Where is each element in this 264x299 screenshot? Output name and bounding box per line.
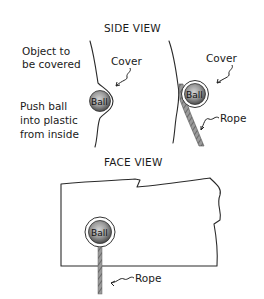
ball-label: Ball — [91, 97, 108, 107]
face-view-panel: Ball Rope — [61, 178, 220, 294]
rope-label: Rope — [135, 272, 161, 284]
cover-arrow-icon — [217, 65, 232, 83]
object-to-be-covered-label-line1: Object to — [22, 45, 70, 57]
face-view-title: FACE VIEW — [104, 156, 163, 168]
cover-arrow-icon — [116, 68, 130, 86]
side-view-title: SIDE VIEW — [104, 22, 161, 34]
push-ball-label-line2: into plastic — [20, 114, 78, 126]
ball-label: Ball — [91, 228, 108, 238]
rope-arrow-icon — [111, 277, 134, 283]
tarp-outline — [61, 178, 220, 266]
object-to-be-covered-label-line2: be covered — [22, 58, 81, 70]
side-view-left-panel: Object to be covered Ball Cover Push bal… — [20, 41, 142, 147]
tarp-ball-tie-diagram: SIDE VIEW Object to be covered Ball Cove… — [0, 0, 264, 299]
rope-icon — [98, 247, 102, 294]
rope-arrowhead-icon — [111, 281, 115, 286]
push-ball-label-line3: from inside — [20, 128, 79, 140]
rope-label: Rope — [220, 112, 246, 124]
object-surface-line — [169, 41, 179, 143]
rope-arrow-icon — [201, 117, 219, 130]
cover-label: Cover — [111, 55, 142, 67]
side-view-right-panel: Ball Cover Rope — [169, 41, 246, 146]
push-ball-label-line1: Push ball — [20, 100, 67, 112]
cover-label: Cover — [206, 52, 237, 64]
ball-label: Ball — [186, 90, 203, 100]
